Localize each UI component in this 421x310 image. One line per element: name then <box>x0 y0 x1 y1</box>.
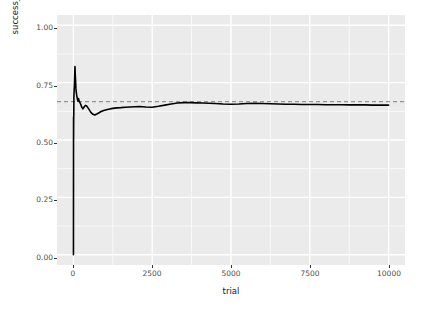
x-tick-mark-4 <box>389 265 390 268</box>
y-tick-label-0: 0.00 <box>7 254 53 262</box>
plot-panel <box>57 15 405 265</box>
x-tick-mark-2 <box>231 265 232 268</box>
x-tick-label-2: 5000 <box>205 270 257 278</box>
x-tick-label-4: 10000 <box>363 270 415 278</box>
x-tick-label-1: 2500 <box>126 270 178 278</box>
x-tick-mark-1 <box>152 265 153 268</box>
y-axis-title: success_rate <box>8 0 22 132</box>
x-tick-label-3: 7500 <box>284 270 336 278</box>
y-tick-label-2: 0.50 <box>7 139 53 147</box>
x-tick-mark-3 <box>310 265 311 268</box>
x-tick-mark-0 <box>73 265 74 268</box>
x-tick-label-0: 0 <box>47 270 99 278</box>
plot-svg <box>57 15 405 265</box>
chart-container: 0.00 0.25 0.50 0.75 1.00 0 2500 5000 750… <box>0 0 421 310</box>
y-tick-label-1: 0.25 <box>7 196 53 204</box>
major-gridlines <box>57 15 405 265</box>
x-axis-title: trial <box>57 286 405 296</box>
